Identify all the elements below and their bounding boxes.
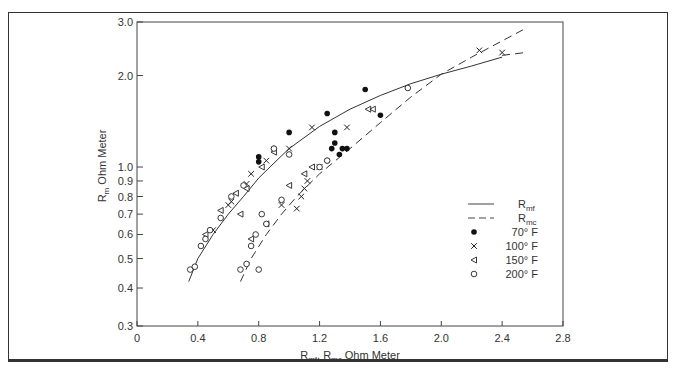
y-tick-label: 2.0: [118, 70, 133, 82]
x-marker: [248, 171, 254, 177]
y-tick-label: 0.5: [118, 253, 133, 265]
legend-filled-circle-icon: [471, 229, 477, 235]
filled-circle-marker: [337, 152, 343, 158]
y-tick-label: 1.0: [118, 161, 133, 173]
y-tick-label: 0.3: [118, 320, 133, 332]
curve-r-mf: [189, 57, 502, 281]
x-marker: [294, 206, 300, 212]
filled-circle-marker: [340, 146, 346, 152]
open-triangle-marker: [259, 164, 265, 170]
y-tick-label: 3.0: [118, 16, 133, 28]
open-triangle-marker: [248, 236, 254, 242]
open-triangle-marker: [218, 207, 224, 213]
open-triangle-marker: [309, 164, 315, 170]
filled-circle-marker: [324, 111, 330, 117]
legend-open-circle-icon: [471, 271, 477, 277]
open-circle-marker: [229, 194, 235, 200]
x-marker: [299, 194, 305, 200]
open-circle-marker: [317, 164, 323, 170]
x-marker: [286, 146, 292, 152]
legend-label: 150° F: [505, 254, 538, 266]
chart: 00.40.81.21.62.02.42.80.30.40.50.60.70.8…: [0, 0, 678, 373]
open-circle-marker: [238, 267, 244, 273]
curve-r-mc-extension: [502, 53, 525, 56]
x-tick-label: 2.4: [494, 332, 509, 344]
open-triangle-marker: [237, 211, 243, 217]
x-tick-label: 0.4: [190, 332, 205, 344]
filled-circle-marker: [329, 146, 335, 152]
legend-label: 70° F: [512, 226, 539, 238]
x-axis-title: Rmf, Rmc Ohm Meter: [300, 349, 400, 364]
open-circle-marker: [286, 152, 292, 158]
filled-circle-marker: [378, 112, 384, 118]
open-circle-marker: [259, 211, 265, 217]
x-tick-label: 1.2: [312, 332, 327, 344]
open-circle-marker: [253, 232, 259, 238]
x-marker: [477, 48, 483, 54]
x-tick-label: 0: [134, 332, 140, 344]
x-marker: [344, 125, 350, 131]
legend-label: Rmc: [518, 212, 537, 227]
open-circle-marker: [256, 267, 262, 273]
y-tick-label: 0.7: [118, 208, 133, 220]
legend-label: Rmf: [518, 198, 536, 213]
x-marker: [309, 125, 315, 131]
legend-label: 200° F: [505, 268, 538, 280]
open-circle-marker: [241, 183, 247, 189]
y-tick-label: 0.4: [118, 282, 133, 294]
open-circle-marker: [248, 243, 254, 249]
y-tick-label: 0.8: [118, 191, 133, 203]
legend-label: 100° F: [505, 240, 538, 252]
x-tick-label: 1.6: [373, 332, 388, 344]
open-circle-marker: [218, 215, 224, 221]
open-circle-marker: [279, 197, 285, 203]
series-100f: [210, 48, 505, 233]
series-200f: [187, 85, 410, 272]
filled-circle-marker: [256, 154, 262, 160]
open-circle-marker: [244, 261, 250, 267]
filled-circle-marker: [362, 87, 368, 93]
x-tick-label: 2.0: [434, 332, 449, 344]
x-marker: [264, 158, 270, 164]
open-circle-marker: [264, 221, 270, 227]
y-tick-label: 0.9: [118, 175, 133, 187]
x-marker: [499, 50, 505, 56]
open-circle-marker: [405, 85, 411, 91]
open-circle-marker: [324, 158, 330, 164]
x-marker: [305, 178, 311, 184]
open-triangle-marker: [301, 171, 307, 177]
series-150f: [202, 106, 375, 242]
y-axis-title: Rm Ohm Meter: [96, 129, 111, 202]
filled-circle-marker: [286, 130, 292, 136]
open-triangle-marker: [286, 182, 292, 188]
x-marker: [302, 186, 308, 192]
legend-x-icon: [471, 243, 477, 249]
x-tick-label: 0.8: [251, 332, 266, 344]
plot-area: [137, 22, 563, 326]
y-tick-label: 0.6: [118, 228, 133, 240]
filled-circle-marker: [332, 130, 338, 136]
legend: RmfRmc70° F100° F150° F200° F: [468, 198, 538, 280]
filled-circle-marker: [256, 159, 262, 165]
x-tick-label: 2.8: [555, 332, 570, 344]
filled-circle-marker: [332, 140, 338, 146]
curve-r-mc: [240, 29, 525, 282]
open-circle-marker: [207, 227, 213, 233]
open-circle-marker: [271, 146, 277, 152]
open-circle-marker: [198, 243, 204, 249]
legend-open-triangle-icon: [471, 257, 477, 263]
open-circle-marker: [203, 236, 209, 242]
open-circle-marker: [192, 264, 198, 270]
